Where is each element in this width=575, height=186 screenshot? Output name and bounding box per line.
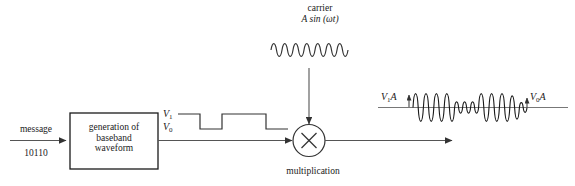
- output-high-amplitude-label: V1A: [381, 91, 397, 104]
- carrier-label: carrier A sin (ωt): [275, 3, 365, 24]
- carrier-label-line2: A sin (ωt): [275, 14, 365, 25]
- ask-modulation-diagram: carrier A sin (ωt) message 10110 generat…: [0, 0, 575, 186]
- message-label: message: [8, 124, 64, 135]
- baseband-square-waveform: [178, 114, 288, 129]
- multiplication-label: multiplication: [258, 166, 368, 177]
- v1-subscript: 1: [169, 113, 173, 121]
- out-v1-suffix: A: [391, 91, 397, 102]
- block-label-line3: waveform: [70, 143, 158, 154]
- baseband-low-level-label: V0: [163, 121, 173, 134]
- carrier-expression: sin (ωt): [307, 14, 339, 24]
- v0-subscript: 0: [169, 126, 173, 134]
- baseband-high-level-label: V1: [163, 108, 173, 121]
- block-label-line2: baseband: [70, 133, 158, 144]
- diagram-canvas: [0, 0, 575, 186]
- baseband-block-label: generation of baseband waveform: [70, 122, 158, 154]
- carrier-sine-waveform: [271, 44, 348, 57]
- message-bits-label: 10110: [8, 148, 64, 159]
- out-v0-suffix: A: [540, 91, 546, 102]
- output-low-amplitude-label: V0A: [530, 91, 546, 104]
- block-label-line1: generation of: [70, 122, 158, 133]
- carrier-label-line1: carrier: [275, 3, 365, 14]
